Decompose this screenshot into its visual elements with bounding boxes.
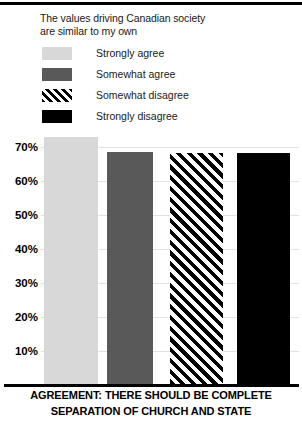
- bar-somewhat-disagree: [170, 153, 223, 384]
- plot-area: 70% 60% 50% 40% 30% 20% 10%: [0, 0, 302, 424]
- x-axis-baseline: [4, 384, 299, 387]
- bar-strongly-disagree: [237, 153, 290, 384]
- bar-somewhat-agree: [107, 152, 153, 384]
- chart-figure: The values driving Canadian society are …: [0, 0, 302, 424]
- bar-strongly-agree: [44, 137, 98, 384]
- bar-series: [0, 0, 302, 424]
- chart-caption: AGREEMENT: THERE SHOULD BE COMPLETE SEPA…: [8, 388, 294, 419]
